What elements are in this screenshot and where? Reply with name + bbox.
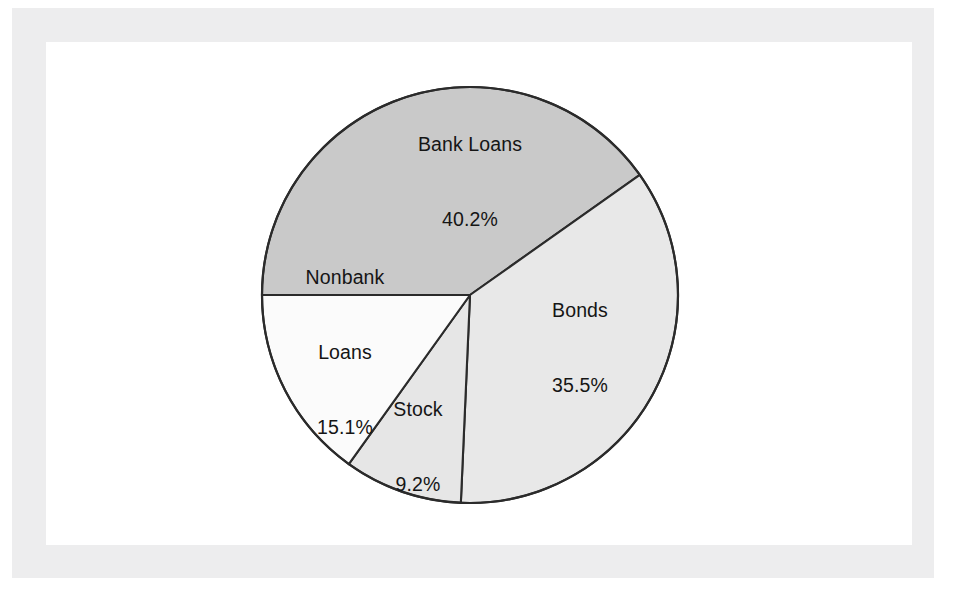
pie-chart-svg: [0, 0, 964, 592]
pie-slices-group: [262, 87, 678, 503]
figure-page: Bank Loans 40.2% Bonds 35.5% Stock 9.2% …: [0, 0, 964, 592]
pie-chart: Bank Loans 40.2% Bonds 35.5% Stock 9.2% …: [0, 0, 964, 592]
